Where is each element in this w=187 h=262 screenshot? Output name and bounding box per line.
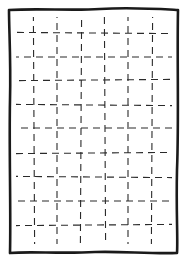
vertical-grid-line: [33, 17, 34, 244]
sketch-canvas: [0, 0, 187, 262]
dashed-grid: [16, 17, 172, 244]
hand-drawn-frame: [9, 8, 178, 253]
horizontal-grid-line: [16, 224, 172, 225]
horizontal-grid-line: [16, 152, 172, 153]
vertical-grid-line: [80, 17, 81, 244]
horizontal-grid-line: [16, 79, 172, 80]
horizontal-grid-line: [16, 104, 172, 105]
vertical-grid-line: [104, 17, 105, 244]
horizontal-grid-line: [16, 176, 172, 177]
horizontal-grid-line: [16, 32, 172, 33]
vertical-grid-line: [151, 17, 152, 244]
